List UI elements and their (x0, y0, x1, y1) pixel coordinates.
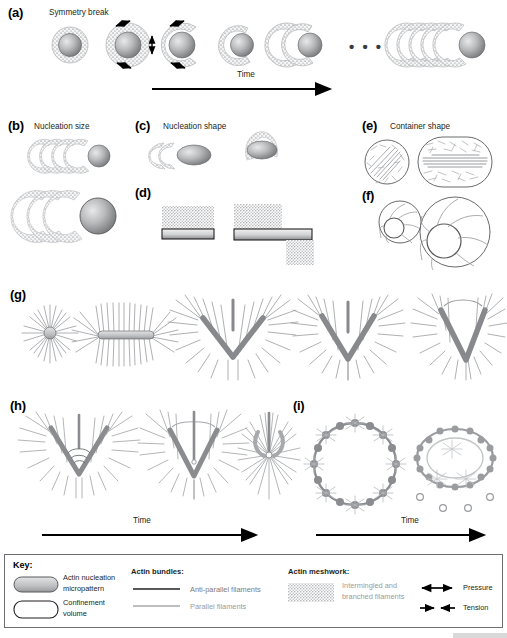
panel-label-g: (g) (10, 287, 26, 302)
panel-g-bar-aster (72, 303, 178, 366)
panel-h-stage2 (138, 410, 249, 499)
panel-e-stadium-container (418, 137, 492, 187)
stage-1-bead-shell (52, 27, 88, 63)
panel-g-graphics (0, 0, 507, 638)
key-label-confinement-line2: volume (63, 609, 87, 618)
key-label-pressure: Pressure (463, 583, 507, 594)
panel-h-time-arrow (0, 0, 507, 638)
key-label-meshwork-line2: branched filaments (342, 592, 404, 601)
panel-b-small (28, 139, 110, 173)
panel-i-ring-contracted (414, 426, 497, 512)
panel-h-stage1 (18, 412, 140, 498)
key-heading-actin-meshwork: Actin meshwork: (288, 567, 349, 576)
panel-a-time-label: Time (237, 70, 255, 79)
panel-g-aster-core (44, 327, 56, 339)
key-heading-actin-bundles: Actin bundles: (131, 567, 184, 576)
panel-title-b: Nucleation size (34, 122, 90, 131)
panel-c-graphics (0, 0, 507, 638)
panel-f-small (379, 201, 421, 243)
panel-d-left (162, 206, 214, 239)
panel-h-time-label: Time (133, 516, 151, 525)
panel-label-a: (a) (8, 5, 23, 20)
key-swatches-group1 (0, 0, 507, 638)
panel-c-horizontal (148, 143, 211, 169)
stage-2-bead-shell (106, 21, 152, 68)
key-title: Key: (13, 560, 33, 570)
panel-title-a: Symmetry break (49, 8, 109, 17)
stage-5-tail-two-arcs (265, 23, 322, 67)
panel-d-right (234, 204, 314, 265)
panel-i-time-arrow (0, 0, 507, 638)
panel-label-c: (c) (135, 118, 150, 133)
panel-label-i: (i) (293, 398, 304, 413)
panel-b-graphics (0, 0, 507, 638)
key-label-confinement-line1: Confinement (63, 598, 105, 607)
panel-c-vertical (246, 132, 278, 160)
panel-i-ring-large-nodes (304, 414, 406, 514)
panel-i-ring-large (304, 414, 406, 514)
key-swatches-group4 (0, 0, 507, 638)
panel-i-graphics (0, 0, 507, 638)
panel-g-mid-v (291, 295, 405, 380)
panel-e-graphics (0, 0, 507, 638)
panel-label-h: (h) (10, 398, 26, 413)
key-label-meshwork-line1: Intermingled and (342, 581, 397, 590)
bottom-grey-strip (453, 633, 507, 638)
panel-f-graphics (0, 0, 507, 638)
panel-i-detached-beads (417, 494, 494, 512)
panel-a-graphics (0, 0, 507, 638)
panel-g-tight-v (411, 294, 507, 380)
panel-g-wide-v (168, 295, 298, 380)
key-label-micropattern-line2: micropattern (63, 584, 104, 593)
key-swatches-group2 (0, 0, 507, 638)
key-label-antiparallel: Anti-parallel filaments (190, 585, 295, 596)
panel-f-large (420, 197, 490, 270)
panel-a-ellipsis: • • • (349, 38, 383, 55)
panel-e-circle-container (365, 140, 409, 184)
panel-label-e: (e) (362, 118, 377, 133)
panel-label-f: (f) (362, 188, 374, 203)
panel-h-stage3 (238, 413, 300, 499)
panel-b-large (11, 191, 116, 243)
key-label-confinement: Confinement volume (63, 598, 149, 619)
panel-label-b: (b) (8, 118, 24, 133)
key-label-meshwork: Intermingled and branched filaments (342, 581, 434, 602)
key-label-tension: Tension (463, 603, 507, 614)
panel-i-time-label: Time (401, 516, 419, 525)
figure-canvas: (a) Symmetry break (0, 0, 507, 638)
panel-title-e: Container shape (390, 122, 450, 131)
key-swatches-group3 (0, 0, 507, 638)
panel-a-time-arrow (0, 0, 507, 638)
key-label-micropattern: Actin nucleation micropattern (63, 573, 149, 594)
stage-6-comet-tail (385, 23, 485, 67)
panel-g-bar-core (98, 331, 154, 339)
key-label-parallel: Parallel filaments (190, 602, 295, 613)
panel-g-aster (22, 305, 78, 363)
key-label-micropattern-line1: Actin nucleation (63, 573, 115, 582)
stage-4-tail-start (219, 26, 254, 66)
stage-3-symmetry-break (161, 21, 196, 68)
panel-title-c: Nucleation shape (163, 122, 226, 131)
panel-i-ring-contracted-nodes (414, 426, 497, 491)
panel-d-graphics (0, 0, 507, 638)
panel-label-d: (d) (135, 185, 151, 200)
panel-h-graphics (0, 0, 507, 638)
